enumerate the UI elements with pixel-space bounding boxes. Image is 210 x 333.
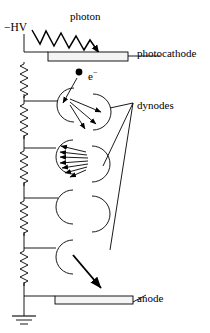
dynode-1 [57, 88, 74, 122]
anode-plate [55, 295, 146, 304]
photon-zigzag-arrow [32, 30, 99, 53]
dynode-2 [93, 94, 111, 130]
dynodes-label: dynodes [137, 100, 174, 111]
electron-arrow-to-anode [73, 255, 101, 288]
electron-arrows-to-dynode-3 [60, 146, 88, 177]
dynode-6 [92, 196, 110, 232]
dynodes-leader-lines [103, 103, 133, 250]
anode-label: anode [137, 293, 163, 304]
voltage-divider-chain [20, 34, 58, 316]
electron-dot [76, 69, 83, 76]
electron-charge-superscript: − [93, 68, 98, 77]
electron-label: e− [88, 69, 97, 82]
resistor-2 [20, 101, 28, 139]
high-voltage-label: −HV [4, 22, 27, 34]
ground-symbol [12, 316, 36, 324]
resistor-3 [20, 148, 28, 186]
dynode-7 [56, 240, 73, 274]
electron-arrows-to-dynode-2 [70, 99, 101, 129]
photon-label: photon [70, 11, 101, 22]
pmt-schematic-figure: photon −HV photocathode e− dynodes anode [0, 0, 210, 333]
resistor-1 [20, 62, 28, 98]
resistor-5 [20, 248, 28, 286]
dynode-5 [56, 190, 73, 224]
photon-ray [32, 30, 99, 53]
resistor-4 [20, 198, 28, 236]
dynode-4 [92, 146, 110, 182]
photocathode-label: photocathode [137, 48, 196, 59]
